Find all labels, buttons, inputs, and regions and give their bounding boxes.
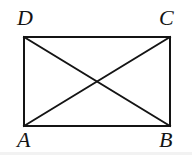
geometry-figure: D C A B <box>0 0 192 155</box>
shape-group <box>24 37 170 126</box>
vertex-label-c: C <box>159 7 174 29</box>
bottom-edge-tint <box>0 152 192 155</box>
vertex-label-a: A <box>17 129 30 151</box>
vertex-label-d: D <box>17 7 33 29</box>
vertex-label-b: B <box>159 129 172 151</box>
